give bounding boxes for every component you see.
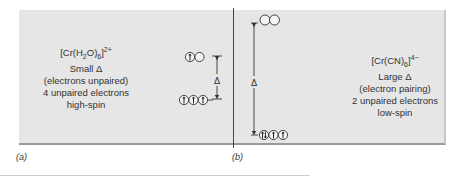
panel-b-delta-arrow: Δ bbox=[249, 25, 259, 135]
panel-b-lower-orbitals bbox=[259, 130, 287, 139]
panel-b-upper-orbitals bbox=[251, 15, 280, 25]
panel-a-lower-orbitals bbox=[179, 95, 213, 104]
orbital-empty-icon bbox=[260, 15, 270, 25]
panel-a-delta-arrow: Δ bbox=[212, 56, 222, 99]
bottom-rule bbox=[0, 175, 310, 176]
delta-symbol-a: Δ bbox=[214, 76, 221, 86]
orbital-empty-icon bbox=[270, 15, 280, 25]
orbital-paired-icon bbox=[259, 130, 268, 139]
delta-symbol-b: Δ bbox=[251, 78, 258, 88]
panel-a-label: (a) bbox=[16, 152, 27, 162]
panel-a-upper-orbitals bbox=[185, 52, 204, 61]
panel-b-label: (b) bbox=[232, 152, 243, 162]
orbital-empty-icon bbox=[195, 52, 204, 61]
